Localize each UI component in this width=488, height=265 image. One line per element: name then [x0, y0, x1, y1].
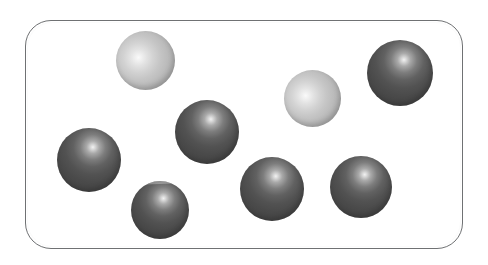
figure-canvas: [0, 0, 488, 265]
sphere-dark-4: [131, 181, 189, 239]
sphere-dark-2: [175, 100, 239, 164]
sphere-light-1: [116, 31, 175, 90]
sphere-light-2: [284, 70, 341, 127]
sphere-dark-6: [330, 156, 392, 218]
sphere-dark-5: [240, 157, 304, 221]
sphere-dark-1: [367, 40, 433, 106]
sphere-dark-3: [57, 128, 121, 192]
